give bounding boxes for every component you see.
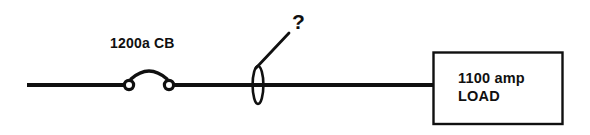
breaker-left-contact-icon bbox=[124, 80, 133, 89]
load-name-label: LOAD bbox=[458, 88, 500, 104]
one-line-diagram: 1200a CB ? 1100 amp LOAD bbox=[0, 0, 590, 135]
breaker-right-contact-icon bbox=[164, 80, 173, 89]
breaker-label: 1200a CB bbox=[110, 35, 175, 51]
question-leader-line bbox=[256, 33, 289, 68]
load-rating-label: 1100 amp bbox=[458, 70, 525, 86]
diagram-canvas: 1200a CB ? 1100 amp LOAD bbox=[0, 0, 590, 135]
unknown-device-question-label: ? bbox=[292, 10, 305, 33]
breaker-arc-icon bbox=[131, 71, 167, 79]
